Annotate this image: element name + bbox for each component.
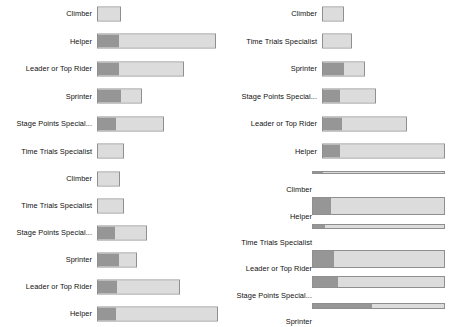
chart-panel-3: ClimberTime Trials SpecialistStage Point…	[0, 165, 225, 327]
stacked-bar[interactable]	[97, 116, 164, 131]
bar-category-label: Time Trials Specialist	[225, 238, 316, 247]
stacked-bar[interactable]	[322, 116, 407, 131]
bar-track	[97, 0, 225, 28]
bar-rows: ClimberTime Trials SpecialistSprinterSta…	[225, 0, 451, 165]
stacked-bar[interactable]	[322, 34, 352, 49]
stacked-bar[interactable]	[312, 250, 445, 268]
bar-track	[322, 55, 451, 83]
bar-track	[97, 28, 225, 56]
bar-category-label: Leader or Top Rider	[0, 282, 97, 291]
stacked-bar[interactable]	[312, 224, 445, 229]
bar-category-label: Climber	[225, 185, 316, 194]
stacked-bar[interactable]	[97, 6, 121, 21]
bar-category-label: Leader or Top Rider	[225, 264, 316, 273]
bar-segment-dark	[313, 198, 331, 214]
bar-category-label: Stage Points Special...	[0, 228, 97, 237]
bar-segment-dark	[98, 90, 121, 103]
bar-track	[312, 222, 445, 248]
bar-track	[312, 248, 445, 274]
stacked-bar[interactable]	[97, 61, 184, 76]
stacked-bar[interactable]	[97, 252, 137, 267]
bar-track	[97, 83, 225, 111]
bar-segment-light	[372, 304, 444, 308]
stacked-bar[interactable]	[312, 303, 445, 309]
bar-category-label: Climber	[225, 9, 322, 18]
bar-category-label: Time Trials Specialist	[225, 37, 322, 46]
bar-row: Climber	[225, 0, 451, 28]
stacked-bar[interactable]	[322, 89, 376, 104]
bar-segment-dark	[98, 62, 119, 75]
bar-segment-light	[98, 172, 119, 185]
bar-category-label: Helper	[225, 212, 316, 221]
bar-track	[322, 110, 451, 138]
bar-category-label: Helper	[0, 37, 97, 46]
bar-segment-dark	[323, 90, 340, 103]
chart-grid: ClimberHelperLeader or Top RiderSprinter…	[0, 0, 451, 327]
stacked-bar[interactable]	[97, 279, 180, 294]
bar-track	[322, 138, 451, 166]
bar-row: Helper	[0, 28, 225, 56]
bar-segment-light	[334, 251, 444, 267]
bar-category-label: Climber	[0, 9, 97, 18]
bar-segment-dark	[98, 280, 117, 293]
stacked-bar[interactable]	[322, 61, 365, 76]
bar-row: Helper	[225, 138, 451, 166]
bar-segment-light	[117, 280, 180, 293]
bar-segment-light	[98, 199, 123, 212]
bar-track	[312, 274, 445, 300]
stacked-bar[interactable]	[97, 34, 216, 49]
bar-row: Climber	[0, 0, 225, 28]
bar-row: Time Trials Specialist	[0, 192, 225, 219]
stacked-bar[interactable]	[97, 306, 218, 321]
stacked-bar[interactable]	[97, 171, 120, 186]
stacked-bar[interactable]	[97, 225, 147, 240]
stacked-bar[interactable]	[322, 6, 344, 21]
stacked-bar[interactable]	[312, 197, 445, 215]
bar-track	[97, 219, 225, 246]
bar-row: Sprinter	[225, 55, 451, 83]
bar-segment-dark	[98, 35, 119, 48]
bar-segment-dark	[98, 253, 119, 266]
bar-track	[97, 273, 225, 300]
bar-segment-dark	[323, 145, 340, 158]
stacked-bar[interactable]	[312, 276, 445, 288]
stacked-bar[interactable]	[312, 171, 445, 174]
bar-segment-light	[98, 145, 123, 158]
bar-track	[312, 301, 445, 327]
bar-segment-light	[338, 277, 444, 287]
bar-category-label: Helper	[0, 309, 97, 318]
stacked-bar[interactable]	[97, 144, 124, 159]
bar-track	[322, 0, 451, 28]
bar-row: Helper	[0, 300, 225, 327]
bar-row: Sprinter	[0, 83, 225, 111]
bar-track	[97, 300, 225, 327]
bar-segment-dark	[313, 251, 334, 267]
bar-row: Leader or Top Rider	[225, 110, 451, 138]
bar-segment-dark	[313, 277, 338, 287]
bar-row: Leader or Top Rider	[0, 273, 225, 300]
bar-segment-light	[98, 7, 120, 20]
bar-row: Time Trials Specialist	[0, 138, 225, 166]
bar-segment-light	[119, 253, 136, 266]
bar-track	[312, 195, 445, 221]
bar-category-label: Time Trials Specialist	[0, 147, 97, 156]
stacked-bar[interactable]	[97, 198, 124, 213]
bar-row: Sprinter	[0, 246, 225, 273]
stacked-bar[interactable]	[322, 144, 445, 159]
bar-track	[97, 110, 225, 138]
bar-rows: ClimberHelperLeader or Top RiderSprinter…	[0, 0, 225, 165]
bar-segment-light	[323, 35, 351, 48]
bar-segment-dark	[323, 62, 344, 75]
stacked-bar[interactable]	[97, 89, 142, 104]
bar-row: Stage Points Special...	[225, 274, 451, 300]
bar-track	[97, 55, 225, 83]
bar-segment-light	[342, 117, 406, 130]
bar-track	[322, 28, 451, 56]
bar-row: Climber	[225, 169, 451, 195]
bar-segment-light	[340, 145, 444, 158]
bar-segment-light	[116, 307, 217, 320]
bar-row: Time Trials Specialist	[225, 28, 451, 56]
bar-row: Stage Points Special...	[0, 219, 225, 246]
bar-segment-light	[116, 117, 162, 130]
bar-segment-dark	[313, 304, 372, 308]
